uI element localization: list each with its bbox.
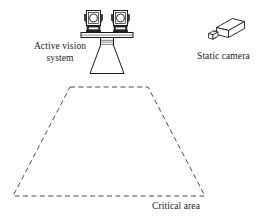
static-camera-graphic bbox=[209, 19, 245, 40]
label-active-vision-line2: system bbox=[47, 53, 74, 63]
label-static-camera: Static camera bbox=[197, 51, 250, 63]
right-camera-head-icon bbox=[111, 11, 129, 33]
static-camera-lens-front bbox=[209, 34, 214, 40]
diagram-svg bbox=[0, 0, 269, 221]
left-camera-head-icon bbox=[84, 11, 102, 33]
label-critical-area: Critical area bbox=[152, 201, 200, 213]
figure-canvas: Active vision system Static camera Criti… bbox=[0, 0, 269, 221]
label-active-vision-system: Active vision system bbox=[22, 41, 98, 64]
pedestal-neck bbox=[101, 38, 114, 45]
critical-area-shape bbox=[13, 87, 205, 196]
camera-mount-bar bbox=[81, 33, 133, 38]
label-active-vision-line1: Active vision bbox=[34, 41, 86, 51]
